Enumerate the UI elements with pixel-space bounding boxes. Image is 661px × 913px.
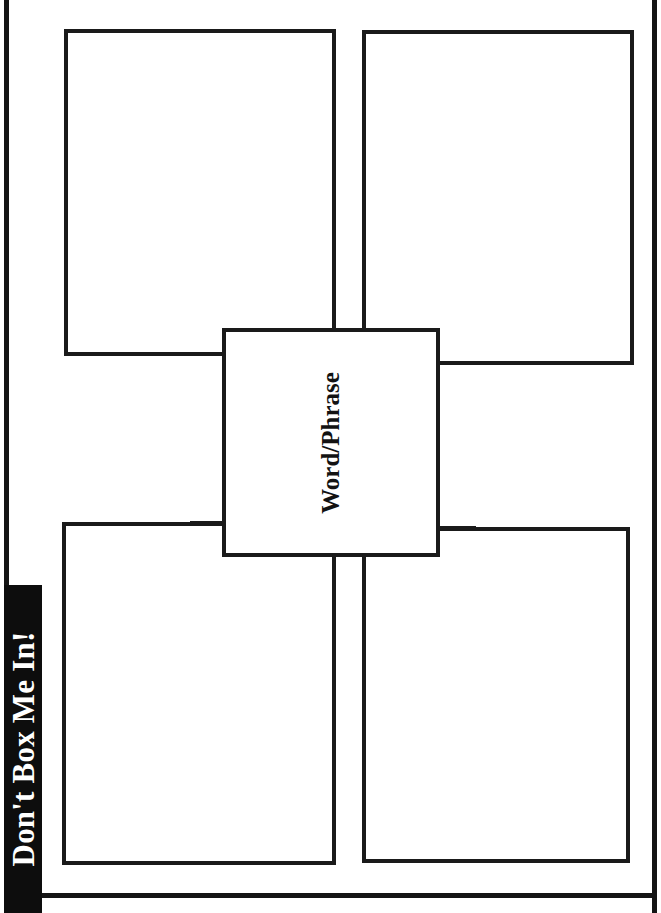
answer-box-bottom-right[interactable] (362, 527, 630, 863)
worksheet-title: Don't Box Me In! (8, 632, 39, 867)
connector-bottom-left-vertical (332, 553, 336, 585)
page-border-bottom (4, 893, 657, 898)
worksheet-title-banner: Don't Box Me In! (4, 585, 42, 913)
center-word-phrase-label: Word/Phrase (318, 372, 343, 514)
answer-box-top-left[interactable] (64, 29, 336, 356)
worksheet-page: Word/Phrase Don't Box Me In! (0, 0, 661, 913)
connector-bottom-right-horizontal (436, 526, 476, 530)
answer-box-top-right[interactable] (362, 30, 634, 365)
page-border-right (652, 0, 657, 913)
connector-top-right-horizontal (436, 361, 476, 365)
answer-box-bottom-left[interactable] (62, 522, 336, 865)
center-word-phrase-box[interactable]: Word/Phrase (222, 328, 440, 557)
connector-bottom-right-vertical (362, 553, 366, 585)
